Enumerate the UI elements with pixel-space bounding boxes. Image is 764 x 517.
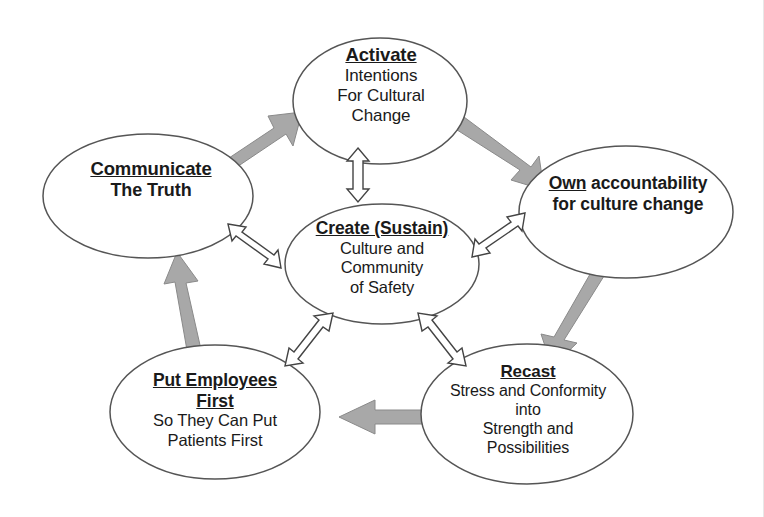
- arrow-recast-to-employees: [339, 400, 427, 434]
- diagram-canvas: .ell { fill:#ffffff; stroke:#555555; str…: [0, 0, 764, 517]
- arrow-employees-to-communicate: [164, 252, 202, 356]
- node-recast[interactable]: [421, 344, 633, 484]
- node-create-sustain[interactable]: [285, 204, 479, 324]
- arrow-communicate-create: [228, 224, 281, 268]
- node-own-accountability[interactable]: [519, 146, 733, 278]
- node-activate[interactable]: [293, 38, 467, 164]
- arrow-activate-to-own: [454, 117, 544, 190]
- node-communicate[interactable]: [43, 134, 253, 258]
- arrow-own-create: [472, 213, 525, 257]
- arrow-recast-create: [418, 313, 466, 366]
- arrow-activate-create: [347, 148, 369, 202]
- arrow-employees-create: [285, 313, 333, 366]
- culture-change-cycle-diagram: .ell { fill:#ffffff; stroke:#555555; str…: [0, 0, 764, 517]
